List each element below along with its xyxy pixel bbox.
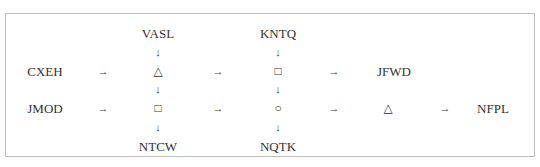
arrow-down-icon: ↓ bbox=[155, 84, 161, 95]
arrow-down-icon: ↓ bbox=[155, 122, 161, 133]
circle-node: ○ bbox=[274, 102, 281, 114]
node-cxeh: CXEH bbox=[27, 65, 62, 78]
node-ntcw: NTCW bbox=[139, 140, 177, 153]
arrow-right-icon: → bbox=[329, 103, 340, 114]
node-vasl: VASL bbox=[142, 27, 174, 40]
arrow-right-icon: → bbox=[98, 66, 109, 77]
square-node: □ bbox=[154, 102, 161, 114]
arrow-right-icon: → bbox=[329, 66, 340, 77]
node-kntq: KNTQ bbox=[260, 27, 296, 40]
node-jfwd: JFWD bbox=[377, 65, 411, 78]
arrow-down-icon: ↓ bbox=[275, 84, 281, 95]
triangle-node: △ bbox=[383, 102, 392, 114]
arrow-right-icon: → bbox=[98, 103, 109, 114]
square-node: □ bbox=[274, 65, 281, 77]
arrow-down-icon: ↓ bbox=[275, 47, 281, 58]
node-nfpl: NFPL bbox=[477, 102, 509, 115]
arrow-right-icon: → bbox=[213, 66, 224, 77]
node-jmod: JMOD bbox=[27, 102, 62, 115]
triangle-node: △ bbox=[153, 65, 162, 77]
node-nqtk: NQTK bbox=[260, 140, 296, 153]
arrow-right-icon: → bbox=[213, 103, 224, 114]
arrow-right-icon: → bbox=[440, 103, 451, 114]
arrow-down-icon: ↓ bbox=[155, 47, 161, 58]
arrow-down-icon: ↓ bbox=[275, 122, 281, 133]
